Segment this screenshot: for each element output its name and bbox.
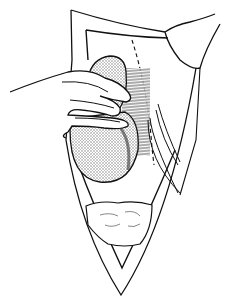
bowel-tissue	[86, 202, 152, 246]
hand	[10, 71, 131, 138]
vessel-strands	[148, 104, 180, 193]
surgical-illustration	[0, 0, 230, 299]
skin-flap	[165, 14, 220, 68]
